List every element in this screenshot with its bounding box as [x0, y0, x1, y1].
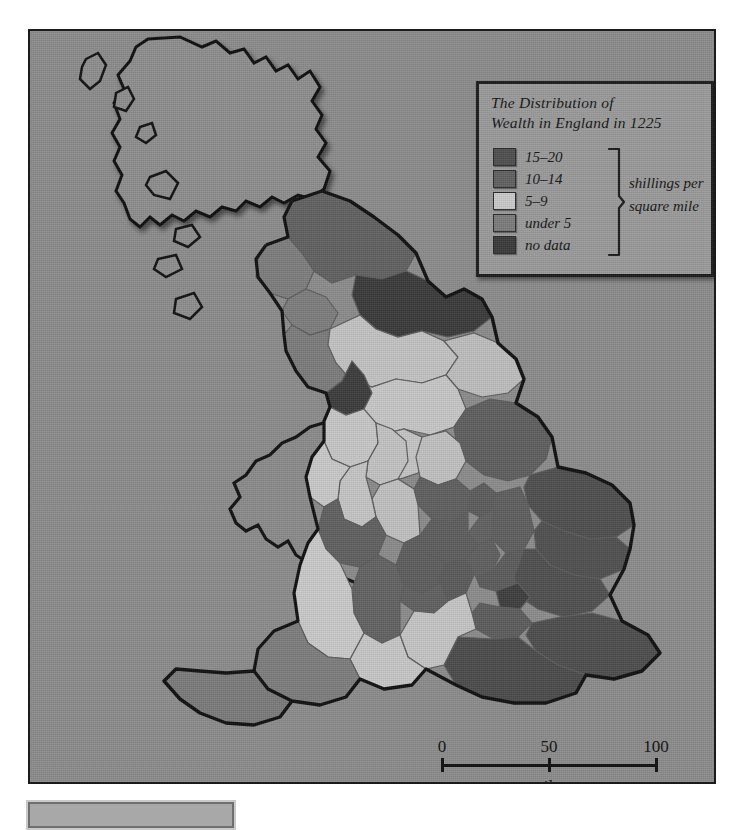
legend-entry-under-5: under 5 — [493, 212, 571, 234]
legend-unit: shillings per square mile — [629, 172, 704, 217]
map-legend: The Distribution of Wealth in England in… — [476, 81, 714, 277]
legend-entry-10-14: 10–14 — [493, 168, 571, 190]
legend-unit-line1: shillings per — [629, 172, 704, 195]
legend-title-line2: Wealth in England in 1225 — [491, 113, 701, 133]
legend-swatch-15-20 — [493, 148, 516, 166]
legend-brace-icon — [607, 146, 625, 258]
legend-label-10-14: 10–14 — [525, 171, 563, 188]
scale-tick-mark-50 — [548, 758, 551, 772]
county-lincolnshire — [454, 399, 552, 481]
scale-tick-100: 100 — [643, 737, 669, 757]
scale-tick-50: 50 — [541, 737, 558, 757]
region-isle-of-man — [174, 293, 202, 319]
legend-entries: 15–20 10–14 5–9 under 5 no data — [493, 146, 571, 256]
legend-swatch-10-14 — [493, 170, 516, 188]
legend-label-5-9: 5–9 — [525, 193, 548, 210]
legend-swatch-5-9 — [493, 192, 516, 210]
scale-tick-mark-100 — [655, 758, 658, 772]
legend-entry-15-20: 15–20 — [493, 146, 571, 168]
scale-caption: miles — [434, 777, 664, 784]
scale-tick-0: 0 — [438, 737, 447, 757]
legend-swatch-no-data — [493, 236, 516, 254]
scale-rule — [434, 758, 664, 772]
legend-label-no-data: no data — [525, 237, 570, 254]
legend-title-line1: The Distribution of — [491, 93, 701, 113]
legend-label-under-5: under 5 — [525, 215, 571, 232]
scale-bar: 0 50 100 miles — [434, 737, 664, 784]
scale-tick-labels: 0 50 100 — [434, 737, 664, 757]
legend-unit-line2: square mile — [629, 195, 704, 218]
map-plate: The Distribution of Wealth in England in… — [28, 29, 716, 784]
legend-entry-no-data: no data — [493, 234, 571, 256]
caption-box — [26, 800, 236, 830]
legend-swatch-under-5 — [493, 214, 516, 232]
county-surrey — [472, 603, 532, 639]
scale-tick-mark-0 — [441, 758, 444, 772]
legend-entry-5-9: 5–9 — [493, 190, 571, 212]
legend-label-15-20: 15–20 — [525, 149, 563, 166]
